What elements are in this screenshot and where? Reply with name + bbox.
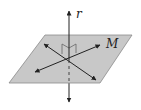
label-r: r <box>76 7 83 21</box>
perpendicular-line-plane-diagram: r M <box>0 0 141 110</box>
label-m: M <box>105 37 119 51</box>
